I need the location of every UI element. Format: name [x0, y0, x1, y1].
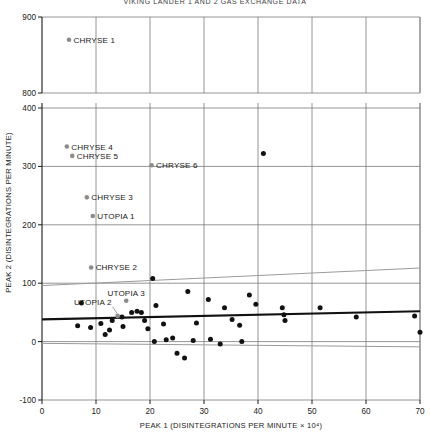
data-point: [75, 323, 80, 328]
x-tick-label: 70: [415, 407, 425, 416]
gridlines-group: [42, 17, 420, 400]
data-point: [142, 318, 147, 323]
data-point: [194, 320, 199, 325]
labeled-data-point: [115, 314, 120, 319]
axis-labels-group: PEAK 1 (DISINTEGRATIONS PER MINUTE × 10⁴…: [4, 132, 322, 430]
y-tick-label: 0: [31, 338, 36, 347]
labeled-data-point: [65, 144, 70, 149]
data-point: [103, 332, 108, 337]
data-point: [281, 312, 286, 317]
data-point: [135, 309, 140, 314]
labeled-data-point: [89, 265, 94, 270]
x-tick-label: 10: [91, 407, 101, 416]
data-point: [185, 289, 190, 294]
data-point: [110, 318, 115, 323]
data-point: [261, 151, 266, 156]
lower-confidence-line: [42, 343, 420, 347]
labeled-data-point: [90, 214, 95, 219]
data-point: [150, 276, 155, 281]
y-tick-label: 800: [22, 89, 36, 98]
data-point: [206, 297, 211, 302]
data-points-group: [75, 151, 422, 360]
data-point: [230, 317, 235, 322]
x-axis-label: PEAK 1 (DISINTEGRATIONS PER MINUTE × 10⁴…: [140, 421, 323, 430]
point-label: CHRYSE 5: [77, 152, 119, 161]
data-point: [280, 305, 285, 310]
data-point: [145, 326, 150, 331]
data-point: [222, 305, 227, 310]
labeled-data-point: [67, 38, 72, 43]
data-point: [208, 337, 213, 342]
data-point: [218, 341, 223, 346]
data-point: [253, 302, 258, 307]
y-tick-label: 200: [22, 221, 36, 230]
data-point: [152, 339, 157, 344]
y-axis-label: PEAK 2 (DISINTEGRATIONS PER MINUTE): [4, 132, 13, 293]
x-tick-label: 50: [307, 407, 317, 416]
data-point: [182, 355, 187, 360]
data-point: [88, 325, 93, 330]
point-label: CHRYSE 6: [156, 161, 198, 170]
data-point: [283, 318, 288, 323]
data-point: [164, 337, 169, 342]
data-point: [191, 338, 196, 343]
x-tick-label: 20: [145, 407, 155, 416]
axis-ticks-group: 010203040506070-1000100200300400800900: [20, 13, 425, 416]
data-point: [161, 322, 166, 327]
data-point: [354, 315, 359, 320]
data-point: [170, 336, 175, 341]
labeled-data-point: [149, 163, 154, 168]
data-point: [175, 351, 180, 356]
y-tick-label: -100: [20, 396, 37, 405]
data-point: [129, 310, 134, 315]
x-tick-label: 40: [253, 407, 263, 416]
y-tick-label: 400: [22, 104, 36, 113]
plot-frame: [42, 17, 420, 400]
y-tick-label: 900: [22, 13, 36, 22]
point-label: UTOPIA 1: [97, 212, 135, 221]
point-label: UTOPIA 3: [107, 289, 145, 298]
data-point: [418, 330, 423, 335]
data-point: [98, 321, 103, 326]
data-point: [247, 292, 252, 297]
x-tick-label: 30: [199, 407, 209, 416]
fit-lines-group: [42, 268, 420, 347]
point-label: CHRYSE 3: [91, 193, 133, 202]
data-point: [239, 339, 244, 344]
labeled-data-point: [124, 298, 129, 303]
labeled-data-point: [85, 195, 90, 200]
x-tick-label: 60: [361, 407, 371, 416]
point-label: CHRYSE 1: [74, 36, 116, 45]
data-point: [153, 303, 158, 308]
labeled-points-group: CHRYSE 1CHRYSE 4CHRYSE 5CHRYSE 6CHRYSE 3…: [65, 36, 198, 318]
data-point: [318, 305, 323, 310]
data-point: [119, 315, 124, 320]
point-label: CHRYSE 2: [96, 263, 138, 272]
y-tick-label: 300: [22, 162, 36, 171]
point-label: CHRYSE 4: [71, 143, 113, 152]
data-point: [139, 310, 144, 315]
figure-container: VIKING LANDER 1 AND 2 GAS EXCHANGE DATA …: [0, 0, 430, 435]
labeled-data-point: [70, 154, 75, 159]
data-point: [412, 313, 417, 318]
data-point: [107, 327, 112, 332]
data-point: [237, 323, 242, 328]
scatter-plot: CHRYSE 1CHRYSE 4CHRYSE 5CHRYSE 6CHRYSE 3…: [0, 0, 430, 435]
data-point: [121, 324, 126, 329]
y-tick-label: 100: [22, 279, 36, 288]
point-label: UTOPIA 2: [74, 298, 112, 307]
x-tick-label: 0: [40, 407, 45, 416]
